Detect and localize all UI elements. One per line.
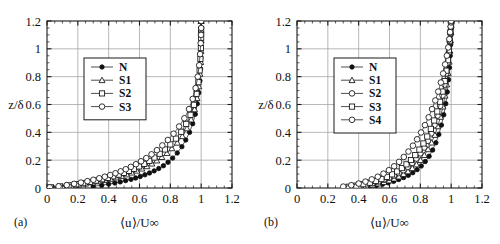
marker-S4 bbox=[386, 167, 392, 173]
marker-N bbox=[129, 177, 133, 181]
x-tick-label: 1.2 bbox=[224, 192, 240, 206]
y-tick-label: 0.4 bbox=[25, 126, 41, 140]
marker-S3 bbox=[435, 109, 440, 114]
legend-label-S2: S2 bbox=[369, 87, 381, 99]
marker-S4 bbox=[438, 80, 444, 86]
marker-S4 bbox=[381, 171, 387, 177]
y-tick-label: 0.2 bbox=[275, 154, 291, 168]
marker-N bbox=[152, 169, 156, 173]
marker-N bbox=[419, 164, 423, 168]
marker-legend-S2 bbox=[99, 91, 104, 96]
legend-label-N: N bbox=[119, 61, 128, 73]
legend: NS1S2S3 bbox=[84, 58, 146, 120]
marker-S4 bbox=[369, 177, 375, 183]
marker-S4 bbox=[444, 53, 450, 59]
marker-legend-S3 bbox=[349, 104, 354, 109]
x-tick-label: 0.4 bbox=[351, 192, 367, 206]
marker-S4 bbox=[422, 122, 428, 128]
y-tick-label: 0.2 bbox=[25, 154, 41, 168]
marker-S4 bbox=[440, 71, 446, 77]
marker-S4 bbox=[426, 115, 432, 121]
legend-label-S1: S1 bbox=[369, 74, 381, 86]
marker-S3 bbox=[96, 175, 102, 181]
marker-S2 bbox=[184, 121, 189, 126]
y-tick-label: 0 bbox=[35, 182, 41, 196]
marker-S4 bbox=[442, 62, 448, 68]
marker-S2 bbox=[179, 129, 184, 134]
marker-S3 bbox=[186, 106, 192, 112]
y-tick-label: 0 bbox=[285, 182, 291, 196]
y-tick-label: 0.8 bbox=[275, 70, 291, 84]
marker-N bbox=[170, 156, 174, 160]
chart-panel-b: 00.20.40.60.811.200.20.40.60.811.2⟨u⟩/U∞… bbox=[250, 0, 500, 244]
marker-S3 bbox=[198, 40, 204, 46]
marker-S4 bbox=[391, 163, 397, 169]
marker-S4 bbox=[363, 179, 369, 185]
marker-S3 bbox=[78, 180, 84, 186]
legend-label-S4: S4 bbox=[369, 114, 381, 126]
marker-S3 bbox=[160, 143, 166, 149]
chart-panel-a: 00.20.40.60.811.200.20.40.60.811.2⟨u⟩/U∞… bbox=[0, 0, 250, 244]
marker-S4 bbox=[356, 181, 362, 187]
marker-legend-N bbox=[350, 65, 354, 69]
x-tick-label: 0 bbox=[44, 192, 50, 206]
x-tick-label: 1 bbox=[198, 192, 204, 206]
x-tick-label: 0.8 bbox=[163, 192, 179, 206]
legend-label-S1: S1 bbox=[119, 74, 131, 86]
marker-S4 bbox=[410, 143, 416, 149]
marker-S3 bbox=[138, 158, 144, 164]
y-axis-title: z/δ bbox=[8, 97, 24, 112]
marker-S3 bbox=[413, 153, 418, 158]
marker-S4 bbox=[418, 130, 424, 136]
marker-S3 bbox=[149, 152, 155, 158]
marker-N bbox=[138, 174, 142, 178]
marker-S4 bbox=[375, 174, 381, 180]
panel-tag: (b) bbox=[264, 215, 278, 229]
marker-S3 bbox=[176, 124, 182, 130]
x-tick-label: 0.4 bbox=[101, 192, 117, 206]
marker-S3 bbox=[71, 181, 77, 187]
marker-S3 bbox=[425, 134, 430, 139]
marker-legend-S2 bbox=[349, 91, 355, 97]
marker-S3 bbox=[165, 137, 171, 143]
marker-S3 bbox=[133, 161, 139, 167]
y-tick-label: 0.6 bbox=[275, 98, 291, 112]
x-axis-title: ⟨u⟩/U∞ bbox=[370, 215, 409, 230]
marker-S3 bbox=[182, 115, 188, 121]
marker-S3 bbox=[417, 147, 422, 152]
marker-N bbox=[415, 167, 419, 171]
marker-N bbox=[157, 166, 161, 170]
marker-S4 bbox=[396, 159, 402, 165]
marker-S3 bbox=[196, 62, 202, 68]
x-tick-label: 1.2 bbox=[474, 192, 490, 206]
marker-legend-S3 bbox=[99, 104, 105, 110]
y-tick-label: 0.6 bbox=[25, 98, 41, 112]
legend: NS1S2S3S4 bbox=[334, 58, 396, 133]
marker-S3 bbox=[428, 126, 433, 131]
plot-svg: 00.20.40.60.811.200.20.40.60.811.2⟨u⟩/U∞… bbox=[250, 0, 500, 244]
legend-label-N: N bbox=[369, 61, 378, 73]
marker-S4 bbox=[447, 36, 453, 42]
marker-S3 bbox=[64, 182, 70, 188]
y-tick-label: 1 bbox=[35, 42, 41, 56]
marker-S4 bbox=[435, 89, 441, 95]
y-axis-title: z/δ bbox=[258, 97, 274, 112]
marker-legend-N bbox=[100, 65, 104, 69]
marker-S4 bbox=[445, 45, 451, 51]
legend-box bbox=[334, 58, 396, 133]
marker-S3 bbox=[198, 25, 204, 31]
marker-N bbox=[423, 159, 427, 163]
marker-legend-S4 bbox=[349, 117, 355, 123]
x-tick-label: 0.6 bbox=[382, 192, 398, 206]
marker-S3 bbox=[47, 185, 53, 191]
marker-N bbox=[143, 173, 147, 177]
marker-S3 bbox=[113, 170, 119, 176]
marker-S4 bbox=[448, 18, 454, 24]
y-tick-label: 1.2 bbox=[25, 15, 41, 29]
marker-S3 bbox=[197, 51, 203, 57]
marker-S3 bbox=[432, 118, 437, 123]
marker-S3 bbox=[102, 174, 108, 180]
marker-S3 bbox=[190, 96, 196, 102]
panel-tag: (a) bbox=[14, 215, 27, 229]
marker-N bbox=[123, 178, 127, 182]
